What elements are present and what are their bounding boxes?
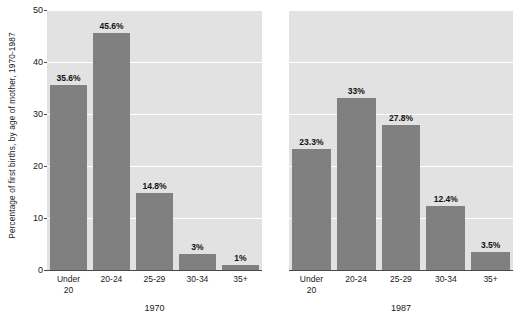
bar-value-label: 27.8% bbox=[389, 113, 413, 123]
x-axis-line-1987 bbox=[289, 270, 513, 271]
panel-title-1970: 1970 bbox=[47, 303, 262, 313]
bar-value-label: 1% bbox=[234, 253, 246, 263]
bar: 3.5% bbox=[471, 252, 510, 270]
x-axis-category-label: 35+ bbox=[222, 274, 259, 285]
bar: 3% bbox=[179, 254, 216, 270]
x-axis-line-1970 bbox=[47, 270, 262, 271]
gridline bbox=[289, 62, 513, 63]
y-axis-tick-label: 10 bbox=[33, 213, 43, 223]
x-axis-category-label: 20-24 bbox=[93, 274, 130, 285]
x-axis-category-label: Under 20 bbox=[50, 274, 87, 295]
y-axis-tick-mark bbox=[44, 62, 47, 63]
y-axis-tick-label: 30 bbox=[33, 109, 43, 119]
gridline bbox=[47, 62, 262, 63]
bar: 14.8% bbox=[136, 193, 173, 270]
bar-value-label: 45.6% bbox=[99, 21, 123, 31]
bar-value-label: 3% bbox=[191, 242, 203, 252]
bar-value-label: 23.3% bbox=[299, 137, 323, 147]
y-axis-tick-label: 50 bbox=[33, 5, 43, 15]
y-axis-title: Percentage of first births, by age of mo… bbox=[8, 8, 17, 264]
y-axis-tick-mark bbox=[44, 114, 47, 115]
y-axis-tick-mark bbox=[44, 166, 47, 167]
bar: 23.3% bbox=[292, 149, 331, 270]
gridline bbox=[47, 10, 262, 11]
bar-value-label: 35.6% bbox=[56, 73, 80, 83]
gridline bbox=[289, 10, 513, 11]
panel-title-1987: 1987 bbox=[289, 303, 513, 313]
y-axis-tick-mark bbox=[44, 10, 47, 11]
bar-value-label: 33% bbox=[348, 86, 365, 96]
bar: 12.4% bbox=[426, 206, 465, 270]
bar-value-label: 3.5% bbox=[481, 240, 500, 250]
chart-panel-1987: 23.3%33%27.8%12.4%3.5% 1987 Under 2020-2… bbox=[286, 0, 516, 324]
bar: 35.6% bbox=[50, 85, 87, 270]
y-axis-title-container: Percentage of first births, by age of mo… bbox=[0, 0, 22, 282]
x-axis-category-label: 25-29 bbox=[382, 274, 421, 285]
figure-container: Percentage of first births, by age of mo… bbox=[0, 0, 525, 324]
bar: 33% bbox=[337, 98, 376, 270]
y-axis-tick-label: 20 bbox=[33, 161, 43, 171]
x-axis-category-label: 25-29 bbox=[136, 274, 173, 285]
chart-panel-1970: 0102030405035.6%45.6%14.8%3%1% 1970 Unde… bbox=[22, 0, 264, 324]
x-axis-category-label: 30-34 bbox=[426, 274, 465, 285]
bar-value-label: 12.4% bbox=[434, 194, 458, 204]
x-axis-category-label: 30-34 bbox=[179, 274, 216, 285]
y-axis-tick-label: 0 bbox=[38, 265, 43, 275]
y-axis-tick-label: 40 bbox=[33, 57, 43, 67]
x-axis-category-label: 35+ bbox=[471, 274, 510, 285]
y-axis-tick-mark bbox=[44, 218, 47, 219]
x-axis-category-label: 20-24 bbox=[337, 274, 376, 285]
bar: 45.6% bbox=[93, 33, 130, 270]
plot-area-1987: 23.3%33%27.8%12.4%3.5% bbox=[289, 10, 513, 270]
bar: 27.8% bbox=[382, 125, 421, 270]
plot-area-1970: 0102030405035.6%45.6%14.8%3%1% bbox=[47, 10, 262, 270]
x-axis-category-label: Under 20 bbox=[292, 274, 331, 295]
bar-value-label: 14.8% bbox=[142, 181, 166, 191]
